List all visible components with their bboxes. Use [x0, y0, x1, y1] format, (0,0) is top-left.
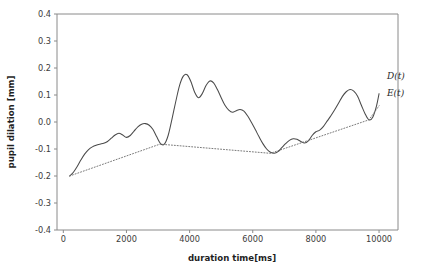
- y-tick-label: -0.4: [35, 225, 51, 235]
- x-axis-label: duration time[ms]: [188, 253, 276, 263]
- y-tick-label: 0.1: [38, 90, 51, 100]
- y-tick-label: -0.2: [35, 171, 51, 181]
- y-tick-label: 0.2: [38, 63, 51, 73]
- x-tick-label: 4000: [179, 234, 200, 244]
- y-tick-label: 0.3: [38, 36, 51, 46]
- x-tick-label: 10000: [366, 234, 392, 244]
- y-tick-label: -0.1: [35, 144, 51, 154]
- chart-canvas: -0.4-0.3-0.2-0.10.00.10.20.30.4 02000400…: [0, 0, 421, 268]
- x-tick-label: 6000: [242, 234, 263, 244]
- chart-figure: -0.4-0.3-0.2-0.10.00.10.20.30.4 02000400…: [0, 0, 421, 268]
- signal-label: D(t): [386, 71, 405, 81]
- y-tick-label: 0.0: [38, 117, 51, 127]
- x-tick-label: 2000: [116, 234, 137, 244]
- x-tick-label: 0: [61, 234, 66, 244]
- x-tick-label: 8000: [305, 234, 326, 244]
- y-tick-label: -0.3: [35, 198, 51, 208]
- envelope-label: E(t): [386, 88, 405, 98]
- y-tick-label: 0.4: [38, 9, 51, 19]
- figure-background: [0, 0, 421, 268]
- y-axis-label: pupil dilation [mm]: [6, 75, 16, 168]
